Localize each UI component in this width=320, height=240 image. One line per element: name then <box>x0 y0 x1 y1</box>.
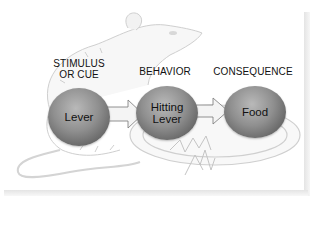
node-label: Lever <box>151 113 184 125</box>
node-stimulus-lever: Lever <box>48 88 110 146</box>
node-behavior-hitting-lever: Hitting Lever <box>136 86 198 140</box>
node-label: Food <box>242 106 268 118</box>
node-consequence-food: Food <box>224 86 286 138</box>
node-label: Hitting <box>151 101 184 113</box>
node-label: Lever <box>65 111 94 123</box>
